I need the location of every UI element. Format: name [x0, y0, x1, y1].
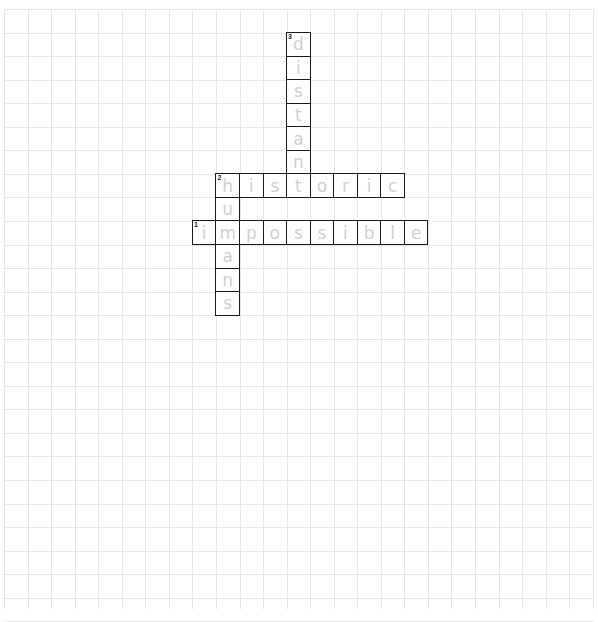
crossword-cell[interactable]: i: [239, 173, 264, 198]
cell-letter: s: [270, 178, 279, 195]
cell-letter: n: [222, 272, 233, 289]
crossword-cell[interactable]: p: [239, 220, 264, 245]
grid-line-vertical: [169, 9, 170, 609]
grid-line-horizontal: [4, 551, 593, 552]
cell-letter: c: [388, 178, 397, 195]
grid-line-vertical: [75, 9, 76, 609]
grid-line-vertical: [4, 9, 5, 609]
cell-letter: t: [295, 178, 302, 195]
cell-letter: d: [293, 36, 304, 53]
grid-line-horizontal: [4, 268, 593, 269]
grid-line-horizontal: [4, 527, 593, 528]
crossword-cell[interactable]: n: [215, 268, 240, 293]
crossword-cell[interactable]: e: [404, 220, 429, 245]
crossword-cell[interactable]: s: [263, 173, 288, 198]
crossword-cell[interactable]: s: [286, 79, 311, 104]
crossword-cell[interactable]: s: [310, 220, 335, 245]
grid-line-horizontal: [4, 480, 593, 481]
cell-letter: a: [223, 248, 233, 265]
cell-letter: b: [364, 225, 375, 242]
grid-line-vertical: [522, 9, 523, 609]
grid-line-vertical: [451, 9, 452, 609]
grid-line-vertical: [145, 9, 146, 609]
cell-letter: s: [294, 225, 303, 242]
cell-letter: t: [295, 107, 302, 124]
crossword-cell[interactable]: b: [357, 220, 382, 245]
cell-letter: p: [246, 225, 257, 242]
clue-number: 3: [288, 33, 292, 40]
cell-letter: h: [222, 178, 233, 195]
crossword-cell[interactable]: l: [380, 220, 405, 245]
cell-letter: u: [222, 201, 233, 218]
crossword-cell[interactable]: r: [333, 173, 358, 198]
grid-line-vertical: [357, 9, 358, 609]
crossword-cell[interactable]: i: [286, 56, 311, 81]
crossword-cell[interactable]: o: [310, 173, 335, 198]
grid-line-horizontal: [4, 504, 593, 505]
cell-letter: i: [343, 225, 348, 242]
grid-line-vertical: [546, 9, 547, 609]
grid-line-horizontal: [4, 598, 593, 599]
cell-letter: i: [296, 60, 301, 77]
crossword-cell[interactable]: o: [263, 220, 288, 245]
crossword-cell[interactable]: 2h: [215, 173, 240, 198]
crossword-cell[interactable]: a: [215, 244, 240, 269]
crossword-cell[interactable]: c: [380, 173, 405, 198]
grid-line-horizontal: [4, 315, 593, 316]
clue-number: 2: [217, 174, 221, 181]
cell-letter: i: [249, 178, 254, 195]
grid-line-horizontal: [4, 433, 593, 434]
crossword-cell[interactable]: 1i: [192, 220, 217, 245]
grid-line-vertical: [192, 9, 193, 609]
cell-letter: m: [219, 225, 236, 242]
cell-letter: o: [317, 178, 327, 195]
grid-line-horizontal: [4, 456, 593, 457]
cell-letter: i: [367, 178, 372, 195]
grid-line-vertical: [381, 9, 382, 609]
crossword-cell[interactable]: m: [215, 220, 240, 245]
cell-letter: i: [202, 225, 207, 242]
crossword-cell[interactable]: i: [357, 173, 382, 198]
cell-letter: s: [294, 83, 303, 100]
crossword-cell[interactable]: s: [286, 220, 311, 245]
grid-line-vertical: [122, 9, 123, 609]
crossword-cell[interactable]: i: [333, 220, 358, 245]
grid-line-vertical: [334, 9, 335, 609]
crossword-board: 1impossible2historicuans3distan: [4, 9, 593, 609]
cell-letter: n: [293, 154, 304, 171]
grid-line-horizontal: [4, 292, 593, 293]
grid-line-vertical: [475, 9, 476, 609]
grid-line-vertical: [569, 9, 570, 609]
clue-number: 1: [194, 221, 198, 228]
grid-line-horizontal: [4, 574, 593, 575]
grid-line-vertical: [98, 9, 99, 609]
cell-letter: s: [223, 295, 232, 312]
crossword-cell[interactable]: n: [286, 150, 311, 175]
grid-line-horizontal: [4, 362, 593, 363]
crossword-cell[interactable]: a: [286, 126, 311, 151]
grid-line-vertical: [428, 9, 429, 609]
grid-line-vertical: [404, 9, 405, 609]
grid-line-vertical: [593, 9, 594, 609]
cell-letter: s: [317, 225, 326, 242]
crossword-cell[interactable]: t: [286, 173, 311, 198]
cell-letter: l: [390, 225, 395, 242]
cell-letter: e: [411, 225, 421, 242]
crossword-cell[interactable]: t: [286, 103, 311, 128]
cell-letter: o: [270, 225, 280, 242]
grid-line-vertical: [28, 9, 29, 609]
grid-line-horizontal: [4, 386, 593, 387]
cell-letter: r: [342, 178, 349, 195]
grid-line-horizontal: [4, 409, 593, 410]
cell-letter: a: [293, 131, 303, 148]
grid-line-horizontal: [4, 339, 593, 340]
grid-line-vertical: [51, 9, 52, 609]
grid-line-vertical: [499, 9, 500, 609]
grid-line-vertical: [263, 9, 264, 609]
crossword-cell[interactable]: u: [215, 197, 240, 222]
crossword-cell[interactable]: s: [215, 291, 240, 316]
grid-line-horizontal: [4, 9, 593, 10]
crossword-cell[interactable]: 3d: [286, 32, 311, 57]
